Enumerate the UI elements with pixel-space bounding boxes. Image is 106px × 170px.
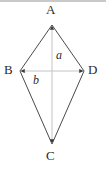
vertex-label-b: B [4,63,13,76]
kite-diagram-svg [0,0,106,170]
edge-AB [20,25,52,71]
geometry-figure-canvas: A B C D a b [0,0,106,170]
diagonal-label-a: a [56,49,62,61]
diagonal-label-b: b [33,74,39,86]
vertex-label-d: D [88,63,97,76]
vertex-label-c: C [46,149,55,162]
edge-DC [52,71,84,144]
vertex-label-a: A [46,3,55,16]
